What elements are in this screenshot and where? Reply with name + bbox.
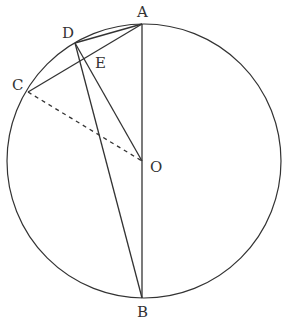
point-labels: ABCDEO (12, 3, 162, 321)
label-point-d: D (62, 24, 74, 42)
label-point-b: B (137, 303, 148, 321)
segments (28, 24, 142, 298)
geometry-diagram: ABCDEO (0, 0, 292, 323)
label-point-e: E (95, 54, 106, 72)
label-point-o: O (150, 158, 162, 176)
circle-o (7, 24, 281, 298)
segment-do (75, 43, 142, 161)
label-point-c: C (12, 76, 23, 94)
segment-db (75, 43, 142, 298)
segment-da (75, 24, 142, 43)
label-point-a: A (136, 3, 148, 21)
segment-co (28, 92, 142, 161)
